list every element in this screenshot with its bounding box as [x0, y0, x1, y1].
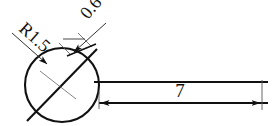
technical-drawing: R1.5 0.6 7	[0, 0, 272, 126]
length-dimension-label: 7	[175, 80, 185, 101]
technical-drawing-canvas: R1.5 0.6 7	[0, 0, 272, 126]
